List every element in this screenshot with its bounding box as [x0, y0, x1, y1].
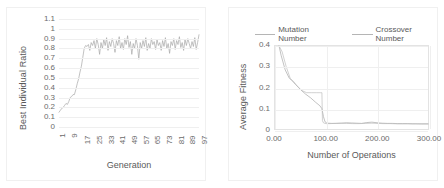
- x-tick-label: 41: [119, 135, 128, 144]
- x-tick-label: 49: [130, 135, 139, 144]
- gridline-horizontal: [59, 88, 199, 89]
- x-tick-label: 0.00: [266, 134, 282, 143]
- y-tick-label: 0.3: [7, 94, 55, 102]
- y-tick-label: 0.2: [7, 103, 55, 111]
- chart-average-fitness: Mutation Number Crossover Number Average…: [229, 8, 437, 180]
- x-axis-title: Number of Operations: [274, 150, 429, 160]
- x-tick-label: 81: [177, 135, 186, 144]
- y-tick-label: 0.3: [229, 62, 270, 70]
- gridline-horizontal: [59, 58, 199, 59]
- x-tick-label: 1: [58, 133, 67, 137]
- series-line: [279, 46, 428, 124]
- gridline-horizontal: [59, 78, 199, 79]
- y-tick-label: 1.1: [7, 15, 55, 23]
- y-axis-title: Average Fitness: [238, 64, 248, 130]
- y-tick-label: 0.5: [7, 74, 55, 82]
- plot-area: [274, 45, 429, 130]
- gridline-horizontal: [59, 98, 199, 99]
- legend-line-icon: [352, 34, 372, 35]
- x-axis-title: Generation: [59, 160, 199, 170]
- y-tick-label: 0.4: [7, 84, 55, 92]
- series-line: [279, 46, 428, 124]
- gridline-vertical: [275, 46, 276, 129]
- chart-panel-average-fitness: Mutation Number Crossover Number Average…: [228, 7, 438, 181]
- y-tick-label: 0.6: [7, 64, 55, 72]
- y-tick-label: 0.4: [229, 41, 270, 49]
- series-line: [59, 35, 199, 113]
- gridline-horizontal: [59, 19, 199, 20]
- gridline-horizontal: [275, 89, 428, 90]
- chart-panel-best-individual-ratio: Best Individual Ratio 1.110.90.80.70.60.…: [6, 7, 206, 181]
- x-tick-label: 89: [189, 135, 198, 144]
- gridline-horizontal: [275, 67, 428, 68]
- y-tick-label: 1: [7, 25, 55, 33]
- y-tick-label: 0.1: [7, 113, 55, 121]
- x-tick-label: 25: [95, 135, 104, 144]
- y-tick-label: 0.7: [7, 54, 55, 62]
- gridline-horizontal: [275, 110, 428, 111]
- x-tick-label: 9: [70, 133, 79, 137]
- chart-best-individual-ratio: Best Individual Ratio 1.110.90.80.70.60.…: [7, 8, 205, 180]
- y-tick-label: 0: [7, 123, 55, 131]
- x-tick-label: 97: [200, 135, 209, 144]
- gridline-horizontal: [59, 107, 199, 108]
- x-tick-label: 100.00: [313, 134, 337, 143]
- series-lines: [59, 19, 199, 127]
- series-lines: [275, 46, 428, 129]
- plot-area: [59, 19, 199, 127]
- gridline-horizontal: [275, 46, 428, 47]
- y-tick-label: 0: [229, 126, 270, 134]
- gridline-horizontal: [59, 39, 199, 40]
- legend-label: Crossover Number: [376, 25, 438, 43]
- y-tick-label: 0.2: [229, 84, 270, 92]
- gridline-vertical: [430, 46, 431, 129]
- legend-line-icon: [255, 34, 275, 35]
- y-tick-label: 0.9: [7, 35, 55, 43]
- gridline-vertical: [327, 46, 328, 129]
- x-tick-label: 33: [107, 135, 116, 144]
- x-tick-label: 65: [154, 135, 163, 144]
- legend-item-crossover-number: Crossover Number: [352, 25, 437, 43]
- gridline-horizontal: [59, 68, 199, 69]
- gridline-horizontal: [59, 48, 199, 49]
- x-tick-label: 300.00: [417, 134, 441, 143]
- chart-legend: Mutation Number Crossover Number: [255, 25, 437, 43]
- gridline-horizontal: [275, 131, 428, 132]
- figure-container: Best Individual Ratio 1.110.90.80.70.60.…: [0, 0, 444, 188]
- gridline-horizontal: [59, 29, 199, 30]
- x-tick-label: 57: [142, 135, 151, 144]
- y-tick-label: 0.8: [7, 44, 55, 52]
- x-tick-label: 200.00: [365, 134, 389, 143]
- y-tick-label: 0.1: [229, 105, 270, 113]
- gridline-horizontal: [59, 127, 199, 128]
- gridline-vertical: [378, 46, 379, 129]
- x-tick-label: 73: [165, 135, 174, 144]
- x-tick-label: 17: [84, 135, 93, 144]
- gridline-horizontal: [59, 117, 199, 118]
- legend-label: Mutation Number: [278, 25, 334, 43]
